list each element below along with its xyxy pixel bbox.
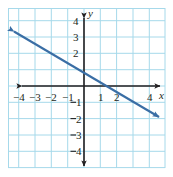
y-tick-label--4: 4 bbox=[76, 146, 82, 157]
x-axis-label: x bbox=[159, 90, 164, 101]
y-tick-label-2: 2 bbox=[73, 48, 79, 59]
x-tick-label-2: 2 bbox=[114, 92, 120, 103]
y-tick-label-4: 4 bbox=[73, 16, 79, 27]
x-tick-label--4: −4 bbox=[13, 92, 25, 103]
y-tick-label--3: 3 bbox=[76, 130, 82, 141]
graph-canvas bbox=[0, 0, 173, 177]
y-tick-label-3: 3 bbox=[73, 32, 79, 43]
x-tick-label--2: −2 bbox=[45, 92, 57, 103]
x-tick-label--1: −1 bbox=[62, 92, 74, 103]
plot-background bbox=[8, 8, 165, 168]
x-tick-label-1: 1 bbox=[98, 92, 104, 103]
coordinate-plane-figure: −4 −3 −2 −1 1 2 4 4 3 2 1 2 3 4 y x bbox=[0, 0, 173, 177]
y-axis-label: y bbox=[88, 8, 93, 19]
x-tick-label-4: 4 bbox=[147, 92, 153, 103]
y-tick-label--1: 1 bbox=[76, 97, 82, 108]
y-tick-label--2: 2 bbox=[76, 114, 82, 125]
x-tick-label--3: −3 bbox=[29, 92, 41, 103]
